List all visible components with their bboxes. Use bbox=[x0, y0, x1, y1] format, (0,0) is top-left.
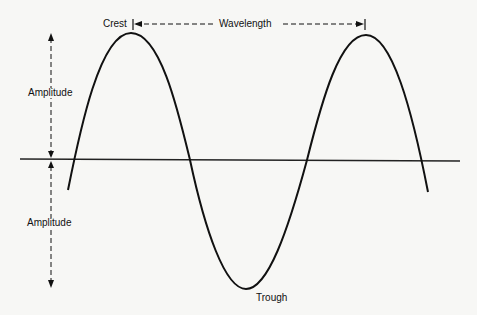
amplitude-lower-arrow-down-icon bbox=[48, 280, 54, 288]
amplitude-upper-arrow-up-icon bbox=[48, 33, 54, 41]
wavelength-arrow-left-icon bbox=[134, 21, 142, 27]
wavelength-label: Wavelength bbox=[218, 19, 272, 29]
wave-diagram: Crest Wavelength Amplitude Amplitude Tro… bbox=[0, 0, 477, 315]
wavelength-arrow-right-icon bbox=[356, 21, 364, 27]
amplitude-upper-label: Amplitude bbox=[27, 88, 73, 98]
wave-svg bbox=[0, 0, 477, 315]
crest-label: Crest bbox=[103, 19, 127, 29]
amplitude-lower-arrow-up-icon bbox=[48, 161, 54, 168]
amplitude-lower-label: Amplitude bbox=[26, 218, 72, 228]
rest-line bbox=[20, 159, 460, 161]
trough-label: Trough bbox=[256, 293, 287, 303]
amplitude-upper-arrow-down-icon bbox=[48, 151, 54, 158]
